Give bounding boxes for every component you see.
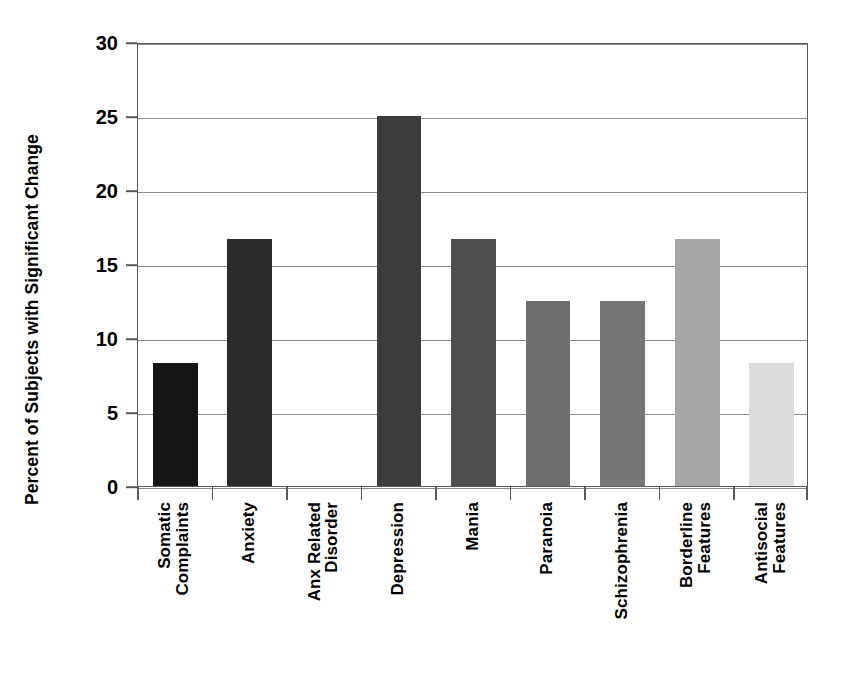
y-axis-tick-mark <box>126 42 137 44</box>
gridline <box>138 44 807 45</box>
x-axis-category-label-line: Features <box>696 502 714 574</box>
gridline <box>138 118 807 119</box>
y-axis-tick-label: 25 <box>72 107 118 127</box>
x-axis-category-label-line: Schizophrenia <box>613 502 631 620</box>
x-axis-tick-marks <box>137 487 808 501</box>
bar <box>153 363 198 486</box>
bar <box>675 239 720 486</box>
x-axis-tick-mark <box>733 487 735 500</box>
y-axis-tick-label: 15 <box>72 255 118 275</box>
x-axis-category-label-line: Features <box>771 502 789 574</box>
y-axis-tick-mark <box>126 264 137 266</box>
bar <box>451 239 496 486</box>
y-axis-tick-mark <box>126 116 137 118</box>
y-axis-tick-mark <box>126 486 137 488</box>
y-axis-tick-mark <box>126 412 137 414</box>
y-axis-tick-label: 20 <box>72 181 118 201</box>
y-axis-tick-labels: 051015202530 <box>72 43 118 487</box>
x-axis-category-label-line: Paranoia <box>538 502 556 575</box>
x-axis-tick-mark <box>806 487 808 500</box>
bar <box>227 239 272 486</box>
x-axis-category-label: AntisocialFeatures <box>733 502 808 684</box>
x-axis-tick-mark <box>510 487 512 500</box>
x-axis-category-label: Anxiety <box>212 502 287 684</box>
x-axis-category-label-line: Mania <box>464 502 482 551</box>
x-axis-category-label-line: Borderline <box>678 502 696 588</box>
x-axis-tick-mark <box>286 487 288 500</box>
bar <box>377 116 422 486</box>
bar <box>749 363 794 486</box>
x-axis-category-label: SomaticComplaints <box>137 502 212 684</box>
y-axis-tick-mark <box>126 190 137 192</box>
x-axis-tick-mark <box>584 487 586 500</box>
x-axis-tick-mark <box>435 487 437 500</box>
y-axis-tick-label: 10 <box>72 329 118 349</box>
x-axis-category-label: Paranoia <box>510 502 585 684</box>
x-axis-category-label-line: Antisocial <box>753 502 771 584</box>
x-axis-category-label-line: Anxiety <box>240 502 258 564</box>
x-axis-tick-mark <box>212 487 214 500</box>
x-axis-category-label-line: Disorder <box>323 502 341 573</box>
x-axis-tick-mark <box>361 487 363 500</box>
bar <box>600 301 645 486</box>
bar-chart: Percent of Subjects with Significant Cha… <box>0 0 847 684</box>
gridline <box>138 192 807 193</box>
y-axis-tick-label: 5 <box>72 403 118 423</box>
x-axis-category-label: Depression <box>361 502 436 684</box>
x-axis-category-label: BorderlineFeatures <box>659 502 734 684</box>
x-axis-category-label: Anx RelatedDisorder <box>286 502 361 684</box>
x-axis-category-label-line: Somatic <box>156 502 174 569</box>
x-axis-category-label: Schizophrenia <box>584 502 659 684</box>
y-axis-tick-mark <box>126 338 137 340</box>
x-axis-category-label: Mania <box>435 502 510 684</box>
plot-area <box>137 43 808 487</box>
x-axis-tick-mark <box>137 487 139 500</box>
y-axis-tick-marks <box>126 43 137 487</box>
x-axis-category-label-line: Depression <box>389 502 407 596</box>
y-axis-tick-label: 30 <box>72 33 118 53</box>
y-axis-tick-label: 0 <box>72 477 118 497</box>
x-axis-category-label-line: Complaints <box>174 502 192 596</box>
y-axis-title: Percent of Subjects with Significant Cha… <box>14 5 50 505</box>
x-axis-category-labels: SomaticComplaintsAnxietyAnx RelatedDisor… <box>137 502 808 684</box>
bar <box>526 301 571 486</box>
x-axis-tick-mark <box>659 487 661 500</box>
x-axis-category-label-line: Anx Related <box>306 502 324 601</box>
